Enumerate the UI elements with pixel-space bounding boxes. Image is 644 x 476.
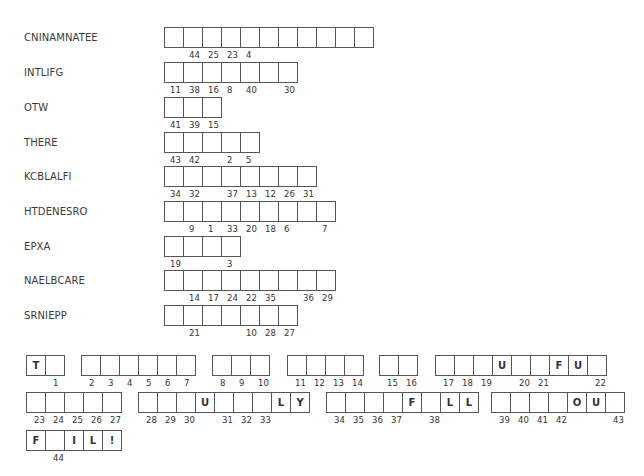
letter-box[interactable]: 9 [184, 201, 203, 222]
phrase-letter-box[interactable]: 39 [492, 392, 511, 413]
phrase-letter-box[interactable]: 18 [455, 355, 474, 376]
letter-box[interactable]: 8 [222, 62, 241, 83]
phrase-letter-box[interactable]: U [196, 392, 215, 413]
phrase-letter-box[interactable]: 40 [511, 392, 530, 413]
letter-box[interactable]: 28 [260, 305, 279, 326]
letter-box[interactable] [355, 27, 374, 48]
letter-box[interactable]: 23 [222, 27, 241, 48]
letter-box[interactable]: 32 [184, 166, 203, 187]
phrase-letter-box[interactable]: 33 [253, 392, 272, 413]
letter-box[interactable]: 21 [184, 305, 203, 326]
letter-box[interactable]: 30 [279, 62, 298, 83]
phrase-letter-box[interactable]: 41 [530, 392, 549, 413]
letter-box[interactable]: 4 [241, 27, 260, 48]
letter-box[interactable]: 18 [260, 201, 279, 222]
letter-box[interactable]: 12 [260, 166, 279, 187]
letter-box[interactable]: 27 [279, 305, 298, 326]
phrase-letter-box[interactable]: ! [103, 430, 122, 451]
letter-box[interactable] [279, 27, 298, 48]
letter-box[interactable]: 25 [203, 27, 222, 48]
phrase-letter-box[interactable]: 9 [232, 355, 251, 376]
letter-box[interactable] [336, 27, 355, 48]
phrase-letter-box[interactable]: 11 [288, 355, 307, 376]
phrase-letter-box[interactable]: 34 [327, 392, 346, 413]
letter-box[interactable]: 11 [165, 62, 184, 83]
letter-box[interactable]: 2 [222, 132, 241, 153]
phrase-letter-box[interactable]: 31 [215, 392, 234, 413]
letter-box[interactable] [203, 236, 222, 257]
letter-box[interactable]: 16 [203, 62, 222, 83]
phrase-letter-box[interactable]: 6 [158, 355, 177, 376]
letter-box[interactable]: 1 [203, 201, 222, 222]
phrase-letter-box[interactable]: 32 [234, 392, 253, 413]
phrase-letter-box[interactable]: 2 [82, 355, 101, 376]
phrase-letter-box[interactable]: 13 [326, 355, 345, 376]
phrase-letter-box[interactable]: L [441, 392, 460, 413]
phrase-letter-box[interactable]: 5 [139, 355, 158, 376]
phrase-letter-box[interactable]: 15 [380, 355, 399, 376]
letter-box[interactable]: 44 [184, 27, 203, 48]
phrase-letter-box[interactable]: 23 [27, 392, 46, 413]
phrase-letter-box[interactable]: F [403, 392, 422, 413]
phrase-letter-box[interactable]: 30 [177, 392, 196, 413]
phrase-letter-box[interactable]: 42 [549, 392, 568, 413]
phrase-letter-box[interactable]: I [65, 430, 84, 451]
letter-box[interactable]: 5 [241, 132, 260, 153]
phrase-letter-box[interactable]: 4 [120, 355, 139, 376]
phrase-letter-box[interactable]: 1 [46, 355, 65, 376]
letter-box[interactable]: 26 [279, 166, 298, 187]
letter-box[interactable]: 35 [260, 270, 279, 291]
letter-box[interactable]: 34 [165, 166, 184, 187]
letter-box[interactable]: 38 [184, 62, 203, 83]
letter-box[interactable]: 43 [165, 132, 184, 153]
phrase-letter-box[interactable]: 37 [384, 392, 403, 413]
phrase-letter-box[interactable]: 10 [251, 355, 270, 376]
phrase-letter-box[interactable]: 16 [399, 355, 418, 376]
letter-box[interactable]: 24 [222, 270, 241, 291]
letter-box[interactable] [184, 236, 203, 257]
phrase-letter-box[interactable]: O [568, 392, 587, 413]
phrase-letter-box[interactable]: 14 [345, 355, 364, 376]
phrase-letter-box[interactable]: U [569, 355, 588, 376]
letter-box[interactable]: 6 [279, 201, 298, 222]
phrase-letter-box[interactable]: 12 [307, 355, 326, 376]
letter-box[interactable]: 37 [222, 166, 241, 187]
letter-box[interactable] [165, 27, 184, 48]
phrase-letter-box[interactable]: 22 [588, 355, 607, 376]
phrase-letter-box[interactable]: L [84, 430, 103, 451]
phrase-letter-box[interactable]: 36 [365, 392, 384, 413]
letter-box[interactable]: 36 [298, 270, 317, 291]
letter-box[interactable] [203, 132, 222, 153]
letter-box[interactable]: 42 [184, 132, 203, 153]
phrase-letter-box[interactable]: 7 [177, 355, 196, 376]
letter-box[interactable]: 41 [165, 97, 184, 118]
letter-box[interactable] [165, 305, 184, 326]
letter-box[interactable]: 20 [241, 201, 260, 222]
letter-box[interactable] [260, 62, 279, 83]
letter-box[interactable]: 19 [165, 236, 184, 257]
phrase-letter-box[interactable]: 27 [103, 392, 122, 413]
letter-box[interactable] [165, 270, 184, 291]
phrase-letter-box[interactable]: 28 [139, 392, 158, 413]
letter-box[interactable]: 29 [317, 270, 336, 291]
letter-box[interactable]: 33 [222, 201, 241, 222]
phrase-letter-box[interactable]: 26 [84, 392, 103, 413]
letter-box[interactable]: 39 [184, 97, 203, 118]
letter-box[interactable] [279, 270, 298, 291]
phrase-letter-box[interactable]: 19 [474, 355, 493, 376]
letter-box[interactable] [203, 166, 222, 187]
letter-box[interactable]: 15 [203, 97, 222, 118]
phrase-letter-box[interactable]: 3 [101, 355, 120, 376]
phrase-letter-box[interactable]: 24 [46, 392, 65, 413]
phrase-letter-box[interactable]: T [27, 355, 46, 376]
letter-box[interactable]: 3 [222, 236, 241, 257]
phrase-letter-box[interactable]: 44 [46, 430, 65, 451]
phrase-letter-box[interactable]: 38 [422, 392, 441, 413]
letter-box[interactable] [317, 27, 336, 48]
phrase-letter-box[interactable]: 17 [436, 355, 455, 376]
letter-box[interactable] [260, 27, 279, 48]
phrase-letter-box[interactable]: 21 [531, 355, 550, 376]
letter-box[interactable] [298, 201, 317, 222]
phrase-letter-box[interactable]: L [460, 392, 479, 413]
phrase-letter-box[interactable]: F [27, 430, 46, 451]
